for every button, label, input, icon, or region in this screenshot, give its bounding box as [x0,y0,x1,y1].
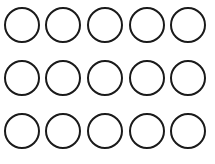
circle-r1-c4 [129,7,165,43]
circle-r2-c2 [45,60,81,96]
circle-r2-c5 [170,60,206,96]
circle-r3-c5 [170,113,206,149]
circle-r1-c1 [4,7,40,43]
circle-r1-c5 [170,7,206,43]
circle-r2-c1 [4,60,40,96]
circle-r2-c3 [87,60,123,96]
circle-r2-c4 [129,60,165,96]
circle-r3-c2 [45,113,81,149]
circle-r3-c3 [87,113,123,149]
circle-r3-c4 [129,113,165,149]
circle-grid [0,0,215,164]
circle-r1-c3 [87,7,123,43]
circle-r1-c2 [45,7,81,43]
circle-r3-c1 [4,113,40,149]
